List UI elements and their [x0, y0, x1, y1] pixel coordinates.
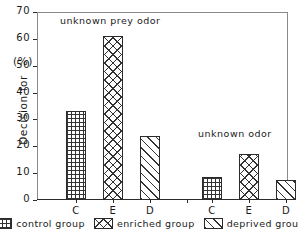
bars-layer — [37, 12, 288, 200]
x-tick-3 — [150, 199, 151, 203]
y-tick-mark-0 — [33, 200, 37, 201]
y-tick-label-70: 70 — [16, 5, 30, 16]
legend-label-control: control group — [16, 218, 85, 229]
x-tick-label-group2-c: C — [202, 205, 222, 216]
legend-item-deprived: deprived group — [204, 218, 298, 229]
bar-group1-deprived — [140, 136, 160, 200]
x-tick-5 — [212, 199, 213, 203]
legend-swatch-deprived-icon — [204, 218, 223, 229]
y-tick-label-50: 50 — [16, 59, 30, 70]
y-tick-label-20: 20 — [16, 139, 30, 150]
x-tick-label-group1-c: C — [66, 205, 86, 216]
y-tick-label-10: 10 — [16, 166, 30, 177]
bar-group2-enriched — [239, 154, 259, 200]
legend-label-deprived: deprived group — [227, 218, 298, 229]
bar-chart: Decision for (%) 0 10 20 30 40 50 60 70 — [0, 0, 298, 236]
x-tick-6 — [249, 199, 250, 203]
bar-group2-control — [202, 177, 222, 200]
x-tick-7 — [286, 199, 287, 203]
x-tick-label-group2-d: D — [276, 205, 296, 216]
x-tick-label-group1-d: D — [140, 205, 160, 216]
legend-label-enriched: enriched group — [117, 218, 195, 229]
bar-group2-deprived — [276, 180, 296, 200]
legend: control group enriched group deprived gr… — [0, 218, 298, 229]
x-tick-1 — [76, 199, 77, 203]
legend-swatch-control-icon — [0, 218, 12, 229]
y-tick-label-60: 60 — [16, 32, 30, 43]
x-tick-2 — [113, 199, 114, 203]
legend-item-control: control group — [0, 218, 85, 229]
y-tick-label-30: 30 — [16, 112, 30, 123]
bar-group1-enriched — [103, 36, 123, 200]
y-tick-label-40: 40 — [16, 86, 30, 97]
x-tick-4 — [187, 199, 188, 203]
legend-swatch-enriched-icon — [94, 218, 113, 229]
y-axis-title: Decision for (%) — [17, 23, 29, 173]
annotation-unknown-prey-odor: unknown prey odor — [60, 15, 160, 26]
bar-group1-control — [66, 111, 86, 200]
y-tick-label-0: 0 — [23, 193, 30, 204]
x-tick-label-group2-e: E — [239, 205, 259, 216]
annotation-unknown-odor: unknown odor — [198, 128, 272, 139]
legend-item-enriched: enriched group — [94, 218, 195, 229]
x-tick-label-group1-e: E — [103, 205, 123, 216]
